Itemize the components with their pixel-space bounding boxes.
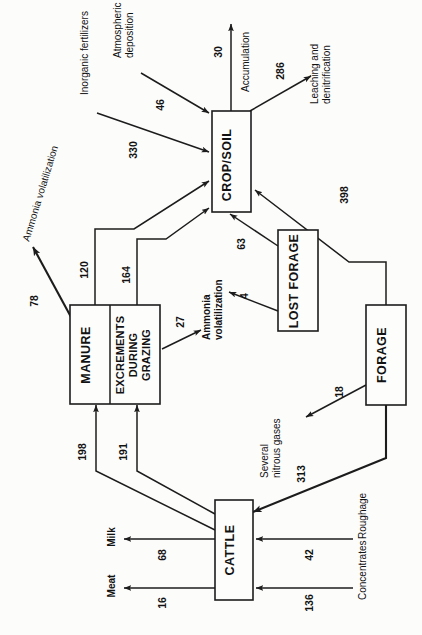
nitrogen-flow-diagram: CROP/SOIL MANURE EXCREMENTS DURING GRAZI… xyxy=(0,0,422,635)
external-label-several-nitrous-gases-line1: Several xyxy=(259,444,270,478)
external-label-ammonia-volatilization-grazing-line2: volatilization xyxy=(213,279,224,340)
flow-value-286: 286 xyxy=(274,62,286,80)
external-label-ammonia-volatilization-grazing-line1: Ammonia xyxy=(201,294,212,340)
node-label-excrements-line3: GRAZING xyxy=(140,329,152,381)
node-label-manure: MANURE xyxy=(79,326,93,383)
node-label-lost-forage: LOST FORAGE xyxy=(287,234,301,329)
flow-value-68: 68 xyxy=(156,549,168,561)
flow-value-63: 63 xyxy=(235,238,247,250)
flow-arrow-manure-to-crop xyxy=(95,181,209,305)
external-label-roughage: Roughage xyxy=(357,492,368,539)
external-label-atmospheric-deposition-line1: Atmospheric xyxy=(112,2,123,58)
external-label-several-nitrous-gases-line2: nitrous gases xyxy=(271,419,282,478)
flow-value-18: 18 xyxy=(333,386,345,398)
flow-value-330: 330 xyxy=(127,141,139,159)
external-label-inorganic-fertilizers: Inorganic fertilizers xyxy=(79,11,90,95)
node-label-forage: FORAGE xyxy=(375,327,389,383)
flow-value-398: 398 xyxy=(338,186,350,204)
flow-arrow-atmospheric-deposition xyxy=(141,73,209,113)
node-label-crop-soil: CROP/SOIL xyxy=(220,129,234,201)
flow-arrow-excrements-to-crop xyxy=(137,208,209,305)
node-label-excrements-line1: EXCREMENTS xyxy=(114,316,126,394)
flow-value-191: 191 xyxy=(117,443,129,461)
flow-arrow-forage-to-crop xyxy=(255,190,386,305)
flow-value-42: 42 xyxy=(303,549,315,561)
diagram-canvas: CROP/SOIL MANURE EXCREMENTS DURING GRAZI… xyxy=(0,0,422,635)
flow-value-16: 16 xyxy=(156,597,168,609)
external-label-meat: Meat xyxy=(106,574,117,597)
flow-value-120: 120 xyxy=(78,261,90,279)
flow-value-46: 46 xyxy=(154,99,166,111)
external-label-milk: Milk xyxy=(106,527,117,547)
flow-arrow-ammonia-volatilization-lost-forage xyxy=(229,292,278,311)
flow-value-198: 198 xyxy=(76,443,88,461)
external-label-concentrates: Concentrates xyxy=(357,541,368,600)
flow-arrow-leaching-denitrification xyxy=(250,76,311,111)
flow-value-4: 4 xyxy=(238,293,250,299)
node-label-cattle: CATTLE xyxy=(223,525,237,576)
flow-value-313: 313 xyxy=(295,465,307,483)
external-label-leaching-line1: Leaching and xyxy=(309,44,320,104)
external-label-leaching-line2: denitrification xyxy=(321,45,332,104)
external-label-accumulation: Accumulation xyxy=(240,32,251,92)
flow-value-78: 78 xyxy=(28,295,40,307)
external-label-atmospheric-deposition-line2: deposition xyxy=(124,12,135,58)
flow-arrow-inorganic-fertilizers xyxy=(97,113,209,152)
flow-value-136: 136 xyxy=(303,594,315,612)
flow-value-164: 164 xyxy=(120,266,132,284)
flow-arrow-ammonia-volatilization-grazing xyxy=(162,330,201,349)
flow-value-30: 30 xyxy=(212,46,224,58)
external-label-ammonia-volatilization-manure: Ammonia volatilization xyxy=(20,144,60,242)
flow-value-27: 27 xyxy=(174,316,186,328)
flow-arrow-cattle-to-manure xyxy=(96,405,215,530)
node-label-excrements-line2: DURING xyxy=(127,333,139,378)
